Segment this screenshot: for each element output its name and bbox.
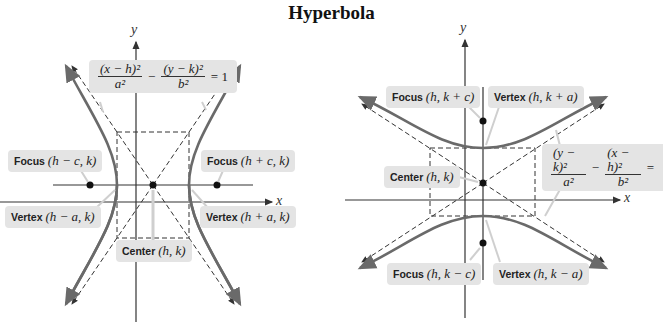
label-vertex-top: Vertex (h, k + a) (488, 86, 584, 108)
right-eq-term1-denominator: a² (563, 175, 573, 189)
label-coord: (h − a, k) (45, 209, 94, 224)
right-eq-term2-denominator: b² (618, 175, 628, 189)
label-word: Vertex (499, 268, 531, 280)
label-word: Center (122, 245, 155, 257)
label-word: Vertex (11, 211, 43, 223)
left-eq-rhs: = 1 (211, 69, 228, 85)
right-eq-term2-numerator: (x − h)² (605, 146, 640, 175)
label-word: Focus (392, 91, 423, 103)
label-focus-top: Focus (h, k + c) (386, 86, 480, 108)
label-vertex-right: Vertex (h + a, k) (200, 206, 296, 228)
label-focus-left: Focus (h − c, k) (8, 150, 102, 172)
label-word: Focus (393, 268, 424, 280)
right-eq-rhs: = (647, 160, 654, 176)
label-coord: (h − c, k) (48, 153, 96, 168)
label-center-right: Center (h, k) (384, 166, 460, 188)
label-word: Vertex (206, 211, 238, 223)
right-y-axis-label: y (460, 20, 466, 36)
right-x-axis-label: x (624, 190, 630, 206)
left-focus-left-point (87, 182, 94, 189)
right-equation: (y − k)²a² − (x − h)²b² = (542, 144, 663, 191)
left-eq-operator: − (148, 69, 155, 85)
label-center-left: Center (h, k) (116, 240, 192, 262)
label-coord: (h, k) (158, 243, 185, 258)
label-coord: (h + c, k) (241, 153, 289, 168)
right-eq-operator: − (592, 160, 599, 176)
label-focus-bottom: Focus (h, k − c) (387, 263, 481, 285)
label-coord: (h + a, k) (240, 209, 289, 224)
label-word: Vertex (494, 91, 526, 103)
right-focus-bottom-point (480, 240, 487, 247)
left-focus-right-point (214, 182, 221, 189)
right-focus-top-point (480, 118, 487, 125)
left-eq-term2-denominator: b² (178, 77, 188, 91)
left-equation: (x − h)²a² − (y − k)²b² = 1 (89, 60, 237, 93)
right-eq-term1-numerator: (y − k)² (551, 146, 586, 175)
label-coord: (h, k − a) (533, 266, 582, 281)
label-coord: (h, k + a) (528, 89, 577, 104)
label-word: Focus (14, 155, 45, 167)
label-word: Center (390, 171, 423, 183)
label-vertex-bottom: Vertex (h, k − a) (493, 263, 589, 285)
label-word: Focus (207, 155, 238, 167)
label-focus-right: Focus (h + c, k) (201, 150, 295, 172)
right-center-point (480, 180, 487, 187)
left-y-axis-label: y (131, 22, 137, 38)
label-coord: (h, k + c) (426, 89, 474, 104)
left-center-point (150, 182, 157, 189)
label-coord: (h, k − c) (427, 266, 475, 281)
left-eq-term1-numerator: (x − h)² (98, 62, 142, 77)
label-coord: (h, k) (426, 169, 453, 184)
left-eq-term2-numerator: (y − k)² (161, 62, 204, 77)
left-eq-term1-denominator: a² (115, 77, 125, 91)
label-vertex-left: Vertex (h − a, k) (5, 206, 101, 228)
